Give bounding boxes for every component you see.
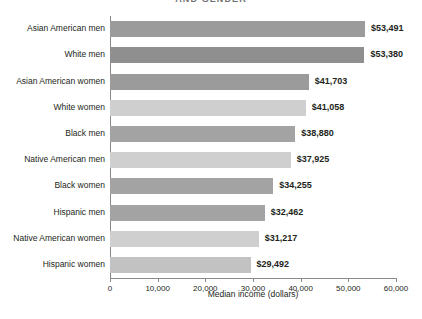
category-label: White women [54,102,106,112]
bar-value-label: $31,217 [265,233,298,243]
bar-row: Asian American men$53,491 [110,21,396,37]
bar-row: White women$41,058 [110,100,396,116]
bar-value-label: $38,880 [301,128,334,138]
chart-container: AND GENDER 010,00020,00030,00040,00050,0… [0,0,422,319]
x-tick-10000 [158,278,159,282]
x-tick-60000 [396,278,397,282]
bar-row: Hispanic men$32,462 [110,205,396,221]
bar-value-label: $34,255 [279,180,312,190]
bar [110,257,251,273]
bar [110,178,273,194]
plot-area: 010,00020,00030,00040,00050,00060,000 As… [110,16,396,278]
x-tick-20000 [205,278,206,282]
bar-row: Native American women$31,217 [110,231,396,247]
bar-row: Black men$38,880 [110,126,396,142]
category-label: Black women [54,180,105,190]
category-label: Native American women [13,233,105,243]
bar-value-label: $37,925 [297,154,330,164]
bar [110,126,295,142]
bar-value-label: $41,058 [312,102,345,112]
x-tick-50000 [348,278,349,282]
bar-value-label: $53,380 [370,49,403,59]
bar [110,21,365,37]
bar-row: Hispanic women$29,492 [110,257,396,273]
bar [110,205,265,221]
x-tick-0 [110,278,111,282]
bar-row: White men$53,380 [110,47,396,63]
bar [110,152,291,168]
bar [110,100,306,116]
bar [110,74,309,90]
bar-value-label: $53,491 [371,23,404,33]
bar-row: Asian American women$41,703 [110,74,396,90]
bar-value-label: $32,462 [271,207,304,217]
bar [110,47,364,63]
bar-row: Black women$34,255 [110,178,396,194]
category-label: Black men [65,128,105,138]
category-label: Hispanic men [54,207,106,217]
category-label: Asian American women [16,76,105,86]
category-label: Hispanic women [43,259,105,269]
x-tick-30000 [253,278,254,282]
x-tick-40000 [301,278,302,282]
category-label: White men [64,49,105,59]
category-label: Native American men [24,154,105,164]
x-axis-title: Median income (dollars) [110,289,396,299]
bar-value-label: $29,492 [257,259,290,269]
category-label: Asian American men [27,23,105,33]
chart-title: AND GENDER [0,0,422,4]
bar-value-label: $41,703 [315,76,348,86]
bar [110,231,259,247]
bar-row: Native American men$37,925 [110,152,396,168]
